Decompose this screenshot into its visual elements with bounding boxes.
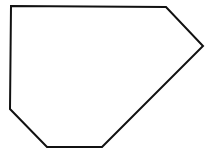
hexagon-shape <box>10 6 203 147</box>
diagram-canvas <box>0 0 212 158</box>
